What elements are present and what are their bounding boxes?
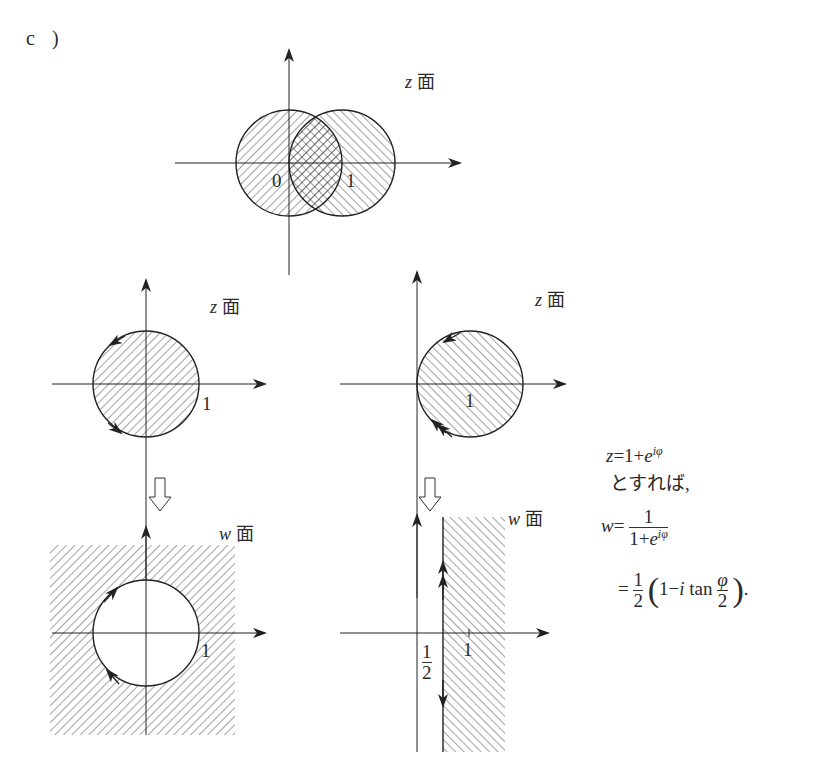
label-one: 1 — [201, 640, 211, 662]
plane-variable: z — [210, 297, 217, 317]
mapping-down-arrow-icon — [149, 478, 171, 511]
plane-variable: z — [405, 72, 412, 92]
plane-char: 面 — [417, 72, 435, 92]
label-one: 1 — [463, 639, 473, 661]
mapping-down-arrow-icon — [419, 478, 441, 511]
plane-char: 面 — [547, 290, 565, 310]
plane-char: 面 — [525, 509, 543, 529]
formula-line-result: = 1 2 (1−i tan φ 2 ). — [618, 570, 749, 611]
bottom-right-w-plane-diagram — [340, 515, 548, 752]
plane-label: w 面 — [219, 519, 254, 545]
formula-line-w: w= 1 1+eiφ — [601, 507, 668, 549]
formula-line-then: とすれば, — [610, 474, 690, 495]
label-one: 1 — [202, 393, 212, 415]
conformal-map-figure — [0, 0, 830, 777]
plane-variable: z — [535, 290, 542, 310]
label-zero: 0 — [272, 170, 282, 192]
plane-label: z 面 — [405, 67, 435, 93]
label-one: 1 — [465, 390, 475, 412]
plane-label: z 面 — [210, 292, 240, 318]
plane-label: w 面 — [508, 504, 543, 530]
plane-char: 面 — [222, 297, 240, 317]
plane-char: 面 — [236, 524, 254, 544]
plane-variable: w — [508, 509, 520, 529]
plane-label: z 面 — [535, 285, 565, 311]
label-one: 1 — [346, 170, 356, 192]
plane-variable: w — [219, 524, 231, 544]
label-one-half: 1 2 — [422, 642, 432, 683]
part-label: c ) — [26, 27, 65, 50]
formula-line-z: z=1+eiφ — [606, 445, 663, 467]
bottom-left-w-plane-diagram — [50, 527, 265, 735]
